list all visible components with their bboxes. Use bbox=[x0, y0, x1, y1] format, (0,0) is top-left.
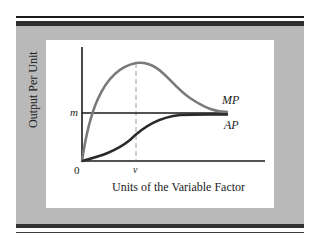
ap-curve bbox=[82, 114, 228, 161]
chart-plot bbox=[0, 0, 322, 244]
x-axis-label: Units of the Variable Factor bbox=[112, 180, 245, 195]
v-tick-label: v bbox=[133, 164, 137, 175]
origin-label: 0 bbox=[74, 164, 80, 176]
ap-label: AP bbox=[224, 118, 239, 133]
mp-label: MP bbox=[222, 93, 239, 108]
mp-curve bbox=[82, 63, 228, 161]
m-tick-label: m bbox=[70, 106, 78, 118]
y-axis-label: Output Per Unit bbox=[26, 51, 41, 128]
